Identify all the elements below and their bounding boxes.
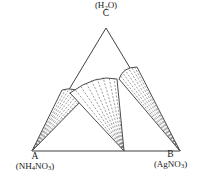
- vertex-a-formula: (NH4NO3): [0, 162, 70, 171]
- middle-region-boundary: [70, 78, 124, 151]
- vertex-a-subscript-1: 4: [32, 164, 35, 171]
- vertex-label-a: A (NH4NO3): [0, 152, 70, 171]
- vertex-label-c: (H2O) C: [72, 1, 140, 19]
- ternary-phase-diagram-figure: (H2O) C A (NH4NO3) B (AgNO3): [0, 0, 205, 188]
- vertex-c-subscript: 2: [104, 4, 107, 11]
- vertex-b-subscript: 3: [181, 162, 184, 169]
- vertex-label-b: B (AgNO3): [136, 150, 205, 169]
- vertex-a-subscript-2: 3: [48, 164, 51, 171]
- right-two-phase-region: [119, 67, 180, 151]
- middle-two-phase-region: [70, 77, 124, 151]
- vertex-b-formula: (AgNO3): [136, 160, 205, 169]
